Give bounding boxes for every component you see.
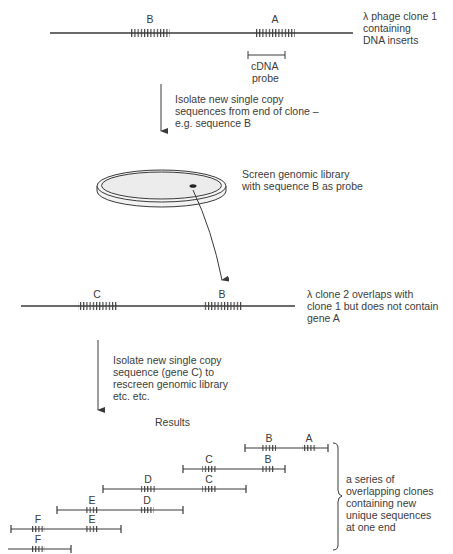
gene-segment-a <box>302 445 316 451</box>
cdna-probe-label: cDNA probe <box>251 60 279 84</box>
step2-instruction: Isolate new single copy sequence (gene C… <box>113 354 228 402</box>
positive-colony-dot <box>190 184 197 188</box>
clone2-gene-c-segment <box>78 302 117 310</box>
result-gene-label-d: D <box>143 494 151 506</box>
result-clone-row <box>57 506 183 514</box>
results-title: Results <box>155 416 190 428</box>
gene-segment-d <box>141 486 155 492</box>
screen-library-instruction: Screen genomic library with sequence B a… <box>242 168 363 192</box>
clone1-gene-a-label: A <box>271 13 278 25</box>
step1-instruction: Isolate new single copy sequences from e… <box>175 93 319 129</box>
result-gene-label-b: B <box>265 432 272 444</box>
gene-segment-b <box>261 466 275 472</box>
result-gene-label-c: C <box>205 473 213 485</box>
gene-segment-c <box>202 466 216 472</box>
cdna-probe-bracket <box>248 51 285 59</box>
clone1-gene-b-label: B <box>146 13 153 25</box>
result-clone-row <box>245 444 328 452</box>
result-gene-label-e: E <box>88 494 95 506</box>
clone2-caption: λ clone 2 overlaps with clone 1 but does… <box>307 288 438 324</box>
result-gene-label-f: F <box>35 533 41 545</box>
result-clone-row <box>103 485 246 493</box>
results-brace <box>333 443 342 550</box>
gene-segment-f <box>31 546 45 552</box>
clone2-gene-b-label: B <box>218 288 225 300</box>
results-bracket-caption: a series of overlapping clones containin… <box>346 473 434 533</box>
results-clone-rows <box>8 444 328 553</box>
result-gene-label-e: E <box>88 513 95 525</box>
clone2-gene-c-label: C <box>93 288 101 300</box>
result-clone-row <box>8 545 71 553</box>
result-gene-label-f: F <box>35 513 41 525</box>
result-clone-row <box>11 525 121 533</box>
result-gene-label-a: A <box>305 432 312 444</box>
clone1-gene-a-segment <box>256 29 295 37</box>
result-gene-label-c: C <box>205 453 213 465</box>
result-clone-row <box>183 465 285 473</box>
clone2-dna-line <box>21 302 295 310</box>
clone1-dna-line <box>50 29 353 37</box>
petri-dish-icon <box>97 170 226 207</box>
gene-segment-e <box>85 526 99 532</box>
result-gene-label-d: D <box>144 473 152 485</box>
clone2-gene-b-segment <box>203 302 242 310</box>
clone1-gene-b-segment <box>131 29 170 37</box>
gene-segment-f <box>31 526 45 532</box>
gene-segment-c <box>202 486 216 492</box>
gene-segment-b <box>262 445 276 451</box>
clone1-caption: λ phage clone 1 containing DNA inserts <box>363 10 437 46</box>
gene-segment-d <box>140 507 154 513</box>
result-gene-label-b: B <box>264 453 271 465</box>
